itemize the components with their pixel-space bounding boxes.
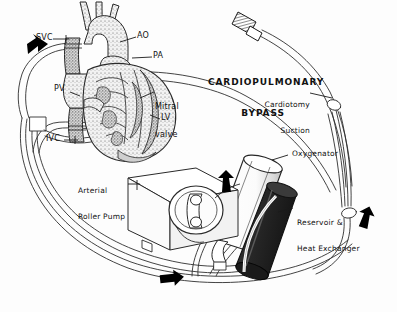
label-cardiotomy-suction-line-2: Suction [246, 127, 310, 136]
label-mitral-valve: Mitral valve [155, 84, 179, 158]
label-arterial-roller-pump-line-2: Roller Pump [78, 213, 125, 222]
label-cardiotomy-suction-line-1: Cardiotomy [246, 101, 310, 110]
label-ivc: IVC [46, 134, 60, 143]
pump-roller-upper [191, 195, 202, 205]
label-mitral-valve-line-2: valve [155, 130, 179, 139]
label-ao: AO [137, 31, 149, 40]
label-svc: SVC [36, 33, 53, 42]
label-arterial-roller-pump: Arterial Roller Pump [78, 170, 125, 239]
label-pv: PV [54, 84, 65, 93]
superior-vena-cava [65, 38, 81, 74]
cardiopulmonary-bypass-figure: CARDIOPULMONARY BYPASS SVC AO PA PV IVC … [0, 0, 397, 312]
label-mitral-valve-line-1: Mitral [155, 102, 179, 111]
pump-roller-lower [191, 217, 202, 227]
venous-connector [30, 117, 46, 131]
label-pa: PA [153, 51, 163, 60]
label-reservoir-line-2: Heat Exchanger [297, 245, 360, 254]
label-oxygenator: Oxygenator [292, 150, 338, 159]
label-cardiotomy-suction: Cardiotomy Suction [246, 84, 310, 153]
label-reservoir-line-1: Reservoir & [297, 219, 360, 228]
inferior-vena-cava [69, 108, 85, 142]
label-reservoir-heat-exchanger: Reservoir & Heat Exchanger [297, 202, 360, 271]
label-arterial-roller-pump-line-1: Arterial [78, 187, 125, 196]
